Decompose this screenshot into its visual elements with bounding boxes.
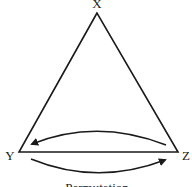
arrow-y-to-z <box>31 159 165 173</box>
diagram-caption: Permutation <box>65 180 129 187</box>
triangle-diagram: X Y Z Permutation <box>0 0 192 187</box>
arrow-z-to-y <box>32 131 166 145</box>
vertex-label-z: Z <box>182 148 190 163</box>
vertex-label-y: Y <box>5 148 15 163</box>
vertex-label-x: X <box>92 0 102 11</box>
